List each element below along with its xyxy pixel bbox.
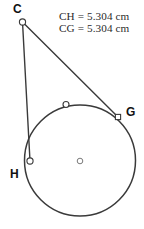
point-marker-h [27,158,33,164]
circle-center-marker [77,158,83,164]
point-marker-c [19,19,25,25]
tangent-segment-cg [23,22,119,117]
point-marker-g [115,114,120,119]
arc-point-marker [63,102,69,108]
point-label-g: G [126,105,135,119]
measurement-cg: CG = 5.304 cm [59,23,129,35]
geometry-canvas [0,0,144,229]
tangent-segment-ch [23,22,31,161]
measurement-ch: CH = 5.304 cm [59,11,129,23]
point-label-c: C [13,2,22,16]
point-label-h: H [10,167,19,181]
geometry-figure: CH = 5.304 cm CG = 5.304 cm C G H [0,0,144,229]
